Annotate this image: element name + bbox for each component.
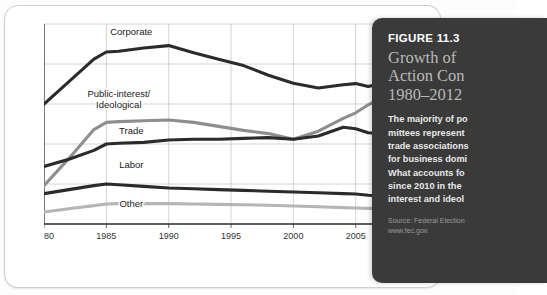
series-label-public-interest: Ideological: [96, 99, 141, 110]
figure-title-line-2: 1980–2012: [388, 86, 537, 104]
series-label-trade: Trade: [119, 125, 143, 136]
figure-description-line-0: The majority of po: [388, 113, 537, 126]
figure-source-line-1: www.fec.gov.: [388, 226, 537, 236]
series-label-labor: Labor: [119, 159, 143, 170]
series-label-corporate: Corporate: [110, 26, 152, 37]
series-label-public-interest: Public-interest/: [87, 88, 150, 99]
figure-description-line-4: What accounts fo: [388, 167, 537, 180]
figure-description-line-2: trade associations: [388, 140, 537, 153]
series-label-other: Other: [119, 198, 143, 209]
figure-title-line-1: Action Con: [388, 67, 537, 85]
figure-description-line-6: interest and ideol: [388, 193, 537, 206]
figure-title-line-0: Growth of: [388, 49, 537, 67]
figure-source: Source: Federal Electionwww.fec.gov.: [388, 216, 537, 236]
figure-number: FIGURE 11.3: [388, 32, 537, 44]
x-tick-label-2000: 2000: [283, 231, 303, 241]
figure-title: Growth ofAction Con1980–2012: [388, 49, 537, 104]
figure-description-line-5: since 2010 in the: [388, 180, 537, 193]
figure-source-line-0: Source: Federal Election: [388, 216, 537, 226]
x-tick-label-1985: 1985: [96, 231, 116, 241]
figure-caption-panel: FIGURE 11.3 Growth ofAction Con1980–2012…: [372, 18, 547, 283]
x-tick-label-2005: 2005: [346, 231, 366, 241]
figure-description: The majority of pomittees representtrade…: [388, 113, 537, 206]
figure-description-line-3: for business domi: [388, 153, 537, 166]
x-tick-label-1980: 1980: [44, 231, 54, 241]
x-tick-label-1995: 1995: [221, 231, 241, 241]
x-tick-label-1990: 1990: [159, 231, 179, 241]
figure-description-line-1: mittees represent: [388, 127, 537, 140]
